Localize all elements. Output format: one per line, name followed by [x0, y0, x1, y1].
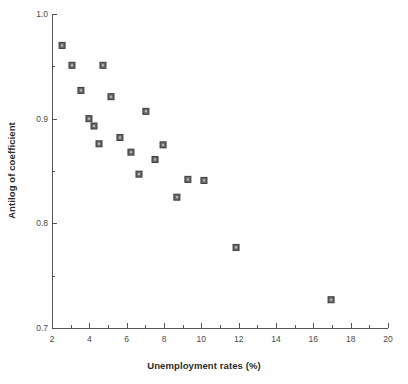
data-point-marker [174, 194, 180, 200]
data-point-marker [185, 176, 191, 182]
y-tick-label: 0.9 [26, 114, 48, 124]
data-point-marker [86, 116, 92, 122]
data-point-marker [96, 141, 102, 147]
data-point-marker [152, 156, 158, 162]
plot-canvas [0, 0, 408, 384]
y-axis-title: Antilog of coefficient [6, 122, 17, 219]
x-tick-label: 4 [87, 334, 92, 344]
x-tick-label: 10 [197, 334, 206, 344]
y-tick-label: 0.8 [26, 218, 48, 228]
data-point-marker [78, 87, 84, 93]
axis-ticks [52, 15, 389, 329]
x-tick-label: 6 [124, 334, 129, 344]
data-point-marker [160, 142, 166, 148]
data-point-marker [143, 108, 149, 114]
data-point-marker [136, 171, 142, 177]
data-point-marker [117, 135, 123, 141]
x-tick-label: 12 [234, 334, 243, 344]
data-point-marker [91, 123, 97, 129]
y-axis-title-container: Antilog of coefficient [0, 0, 22, 340]
x-tick-label: 16 [309, 334, 318, 344]
data-point-marker [328, 297, 334, 303]
data-point-marker [233, 244, 239, 250]
data-point-marker [69, 62, 75, 68]
data-point-marker [108, 94, 114, 100]
y-tick-label: 1.0 [26, 9, 48, 19]
data-point-marker [100, 62, 106, 68]
x-tick-label: 20 [383, 334, 392, 344]
data-point-marker [201, 177, 207, 183]
x-tick-label: 2 [50, 334, 55, 344]
x-axis-title: Unemployment rates (%) [0, 360, 408, 371]
axes [52, 14, 388, 329]
data-point-marker [59, 42, 65, 48]
data-points [59, 42, 334, 302]
y-tick-label: 0.7 [26, 323, 48, 333]
x-tick-label: 18 [346, 334, 355, 344]
scatter-plot-figure: 2468101214161820 0.70.80.91.0 Unemployme… [0, 0, 408, 384]
x-tick-label: 14 [271, 334, 280, 344]
x-tick-label: 8 [162, 334, 167, 344]
data-point-marker [128, 149, 134, 155]
